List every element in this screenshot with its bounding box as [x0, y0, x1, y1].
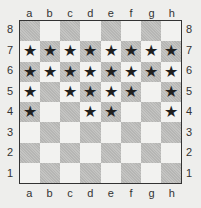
- square-e7: ★: [101, 41, 121, 61]
- square-g3: [141, 122, 161, 142]
- square-h4: ★: [161, 102, 181, 122]
- rank-label-7: 7: [5, 45, 15, 56]
- square-c8: [60, 21, 80, 41]
- rank-label-2: 2: [184, 147, 194, 158]
- square-e1: [101, 163, 121, 183]
- star-icon: ★: [164, 64, 178, 80]
- star-icon: ★: [164, 104, 178, 120]
- rank-label-7: 7: [184, 45, 194, 56]
- star-icon: ★: [83, 64, 97, 80]
- rank-label-6: 6: [184, 65, 194, 76]
- star-icon: ★: [124, 64, 138, 80]
- file-label-h: h: [162, 8, 182, 19]
- square-f5: ★: [121, 82, 141, 102]
- rank-label-4: 4: [5, 106, 15, 117]
- star-icon: ★: [63, 43, 77, 59]
- star-icon: ★: [63, 64, 77, 80]
- square-b2: [40, 143, 60, 163]
- square-g7: ★: [141, 41, 161, 61]
- file-label-c: c: [60, 8, 80, 19]
- square-c2: [60, 143, 80, 163]
- square-e5: ★: [101, 82, 121, 102]
- file-label-a: a: [19, 188, 39, 199]
- square-f6: ★: [121, 62, 141, 82]
- star-icon: ★: [83, 43, 97, 59]
- square-g1: [141, 163, 161, 183]
- square-c5: ★: [60, 82, 80, 102]
- file-label-d: d: [80, 8, 100, 19]
- star-icon: ★: [23, 43, 37, 59]
- square-e4: ★: [101, 102, 121, 122]
- square-h3: [161, 122, 181, 142]
- file-label-f: f: [121, 188, 141, 199]
- chess-board: ★★★★★★★★★★★★★★★★★★★★★★★★★★: [19, 20, 182, 184]
- square-b5: [40, 82, 60, 102]
- star-icon: ★: [104, 43, 118, 59]
- file-label-e: e: [101, 8, 121, 19]
- star-icon: ★: [164, 84, 178, 100]
- square-e2: [101, 143, 121, 163]
- star-icon: ★: [104, 104, 118, 120]
- square-e6: ★: [101, 62, 121, 82]
- square-d2: [80, 143, 100, 163]
- star-icon: ★: [23, 64, 37, 80]
- square-h6: ★: [161, 62, 181, 82]
- rank-label-5: 5: [5, 86, 15, 97]
- square-g5: [141, 82, 161, 102]
- rank-label-1: 1: [184, 168, 194, 179]
- rank-label-8: 8: [5, 24, 15, 35]
- square-h8: [161, 21, 181, 41]
- square-f7: ★: [121, 41, 141, 61]
- square-a8: [20, 21, 40, 41]
- star-icon: ★: [23, 84, 37, 100]
- square-b4: [40, 102, 60, 122]
- square-e8: [101, 21, 121, 41]
- square-h1: [161, 163, 181, 183]
- file-label-d: d: [80, 188, 100, 199]
- square-d7: ★: [80, 41, 100, 61]
- square-c4: [60, 102, 80, 122]
- square-e3: [101, 122, 121, 142]
- file-label-b: b: [40, 8, 60, 19]
- square-b1: [40, 163, 60, 183]
- star-icon: ★: [144, 43, 158, 59]
- square-d5: ★: [80, 82, 100, 102]
- star-icon: ★: [144, 64, 158, 80]
- square-d4: ★: [80, 102, 100, 122]
- star-icon: ★: [83, 84, 97, 100]
- square-a1: [20, 163, 40, 183]
- file-label-e: e: [101, 188, 121, 199]
- square-c1: [60, 163, 80, 183]
- square-d8: [80, 21, 100, 41]
- square-b3: [40, 122, 60, 142]
- rank-label-5: 5: [184, 86, 194, 97]
- square-b8: [40, 21, 60, 41]
- star-icon: ★: [23, 104, 37, 120]
- file-label-g: g: [141, 8, 161, 19]
- star-icon: ★: [63, 84, 77, 100]
- square-f1: [121, 163, 141, 183]
- square-h7: ★: [161, 41, 181, 61]
- rank-label-1: 1: [5, 168, 15, 179]
- square-d1: [80, 163, 100, 183]
- square-d3: [80, 122, 100, 142]
- rank-label-4: 4: [184, 106, 194, 117]
- square-g2: [141, 143, 161, 163]
- square-h2: [161, 143, 181, 163]
- square-a6: ★: [20, 62, 40, 82]
- file-label-b: b: [40, 188, 60, 199]
- square-g8: [141, 21, 161, 41]
- square-a7: ★: [20, 41, 40, 61]
- square-f4: [121, 102, 141, 122]
- file-label-a: a: [19, 8, 39, 19]
- square-h5: ★: [161, 82, 181, 102]
- square-a3: [20, 122, 40, 142]
- star-icon: ★: [43, 43, 57, 59]
- square-a4: ★: [20, 102, 40, 122]
- file-label-f: f: [121, 8, 141, 19]
- square-c3: [60, 122, 80, 142]
- star-icon: ★: [104, 84, 118, 100]
- square-f8: [121, 21, 141, 41]
- file-label-g: g: [141, 188, 161, 199]
- square-a5: ★: [20, 82, 40, 102]
